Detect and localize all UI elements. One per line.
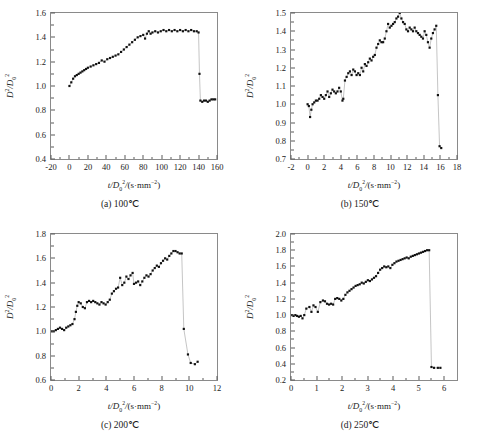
data-point-marker: [179, 252, 181, 254]
data-point-marker: [145, 274, 147, 276]
x-axis-tick-mark: [407, 155, 408, 159]
data-point-marker: [406, 256, 408, 258]
data-point-marker: [137, 36, 139, 38]
x-axis-tick-label: 80: [139, 159, 148, 172]
x-axis-minor-tick-mark: [448, 157, 449, 160]
data-point-marker: [168, 29, 170, 31]
data-point-marker: [154, 30, 156, 32]
panel-a-caption: (a) 100℃: [0, 198, 240, 209]
data-point-marker: [308, 306, 310, 308]
data-point-marker: [126, 46, 128, 48]
x-axis-minor-tick-mark: [329, 378, 330, 381]
y-axis-tick-mark: [51, 307, 55, 308]
x-axis-minor-tick-mark: [120, 378, 121, 381]
data-point-marker: [92, 300, 94, 302]
y-axis-tick-mark: [291, 282, 295, 283]
data-point-marker: [317, 311, 319, 313]
panel-c-data-svg: [51, 234, 217, 380]
data-point-marker: [120, 51, 122, 53]
data-point-marker: [375, 47, 377, 49]
x-axis-minor-tick-mark: [405, 378, 406, 381]
data-point-marker: [377, 272, 379, 274]
y-axis-minor-tick-mark: [51, 294, 54, 295]
x-axis-minor-tick-mark: [354, 378, 355, 381]
panel-d-y-axis-label: D2/D02: [245, 295, 255, 319]
x-axis-tick-mark: [423, 155, 424, 159]
data-point-marker: [165, 30, 167, 32]
data-point-marker: [183, 328, 185, 330]
x-axis-tick-mark: [457, 155, 458, 159]
data-point-marker: [198, 73, 200, 75]
data-point-marker: [430, 37, 432, 39]
y-axis-tick-mark: [291, 250, 295, 251]
y-axis-tick-label: 1.2: [275, 64, 291, 73]
data-point-marker: [70, 81, 72, 83]
data-point-marker: [383, 265, 385, 267]
data-point-marker: [325, 94, 327, 96]
x-axis-tick-label: 60: [121, 159, 130, 172]
x-axis-minor-tick-mark: [147, 378, 148, 381]
y-axis-tick-mark: [291, 31, 295, 32]
x-axis-tick-mark: [189, 376, 190, 380]
figure-four-panel-scatter: D2/D02 0.40.60.81.01.21.41.6-20020406080…: [0, 0, 480, 442]
data-point-marker: [301, 317, 303, 319]
data-point-marker: [152, 269, 154, 271]
y-axis-minor-tick-mark: [51, 270, 54, 271]
x-axis-minor-tick-mark: [134, 157, 135, 160]
x-axis-tick-mark: [69, 155, 70, 159]
data-point-marker: [75, 311, 77, 313]
x-axis-tick-label: 12: [213, 380, 222, 393]
data-point-marker: [370, 59, 372, 61]
y-axis-minor-tick-mark: [291, 131, 294, 132]
data-point-marker: [67, 325, 69, 327]
y-axis-minor-tick-mark: [51, 98, 54, 99]
x-axis-minor-tick-mark: [115, 157, 116, 160]
x-axis-tick-label: 0: [67, 159, 71, 172]
x-axis-tick-label: 6: [442, 380, 446, 393]
x-axis-tick-mark: [134, 376, 135, 380]
data-point-marker: [168, 255, 170, 257]
x-axis-minor-tick-mark: [207, 157, 208, 160]
data-point-marker: [123, 282, 125, 284]
data-point-marker: [55, 329, 57, 331]
data-point-marker: [342, 298, 344, 300]
x-axis-tick-label: 20: [84, 159, 93, 172]
data-point-marker: [425, 34, 427, 36]
data-point-marker: [112, 56, 114, 58]
data-point-marker: [305, 308, 307, 310]
data-point-marker: [399, 259, 401, 261]
y-axis-minor-tick-mark: [291, 274, 294, 275]
panel-c-x-axis-label: t/D02/(s·mm−2): [50, 401, 218, 411]
data-point-marker: [109, 57, 111, 59]
data-point-marker: [73, 318, 75, 320]
data-point-marker: [181, 252, 183, 254]
data-point-marker: [197, 31, 199, 33]
data-point-marker: [158, 266, 160, 268]
data-point-marker: [330, 303, 332, 305]
panel-a-x-axis-label: t/D02/(s·mm−2): [50, 180, 218, 190]
x-axis-tick-mark: [124, 155, 125, 159]
x-axis-tick-mark: [51, 376, 52, 380]
x-axis-minor-tick-mark: [189, 157, 190, 160]
x-axis-tick-mark: [342, 376, 343, 380]
data-point-marker: [190, 362, 192, 364]
x-axis-tick-label: 4: [104, 380, 108, 393]
x-axis-tick-mark: [161, 376, 162, 380]
data-point-marker: [324, 300, 326, 302]
data-point-marker: [71, 323, 73, 325]
x-axis-tick-label: 100: [155, 159, 168, 172]
data-point-marker: [61, 328, 63, 330]
x-axis-minor-tick-mark: [303, 378, 304, 381]
data-point-marker: [342, 98, 344, 100]
data-point-marker: [382, 41, 384, 43]
x-axis-tick-mark: [440, 155, 441, 159]
x-axis-tick-label: 4: [391, 380, 395, 393]
data-point-marker: [185, 29, 187, 31]
data-point-marker: [416, 253, 418, 255]
x-axis-tick-label: 160: [211, 159, 224, 172]
data-point-marker: [385, 30, 387, 32]
data-point-marker: [399, 13, 401, 14]
data-point-marker: [117, 286, 119, 288]
data-point-marker: [84, 307, 86, 309]
x-axis-tick-mark: [198, 155, 199, 159]
